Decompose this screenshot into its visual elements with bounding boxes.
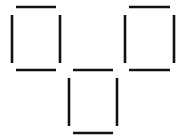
matchstick-diagram [0,0,181,140]
middle-square [69,70,117,133]
left-square [12,7,60,70]
right-square [125,7,174,70]
